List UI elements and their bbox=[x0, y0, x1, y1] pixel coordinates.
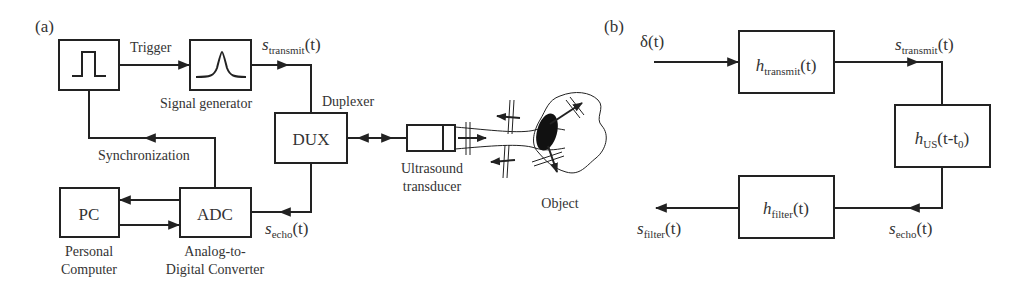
transducer-caption-line2: transducer bbox=[403, 179, 462, 194]
transmit-line bbox=[251, 65, 311, 113]
trigger-label: Trigger bbox=[130, 40, 172, 55]
adc-caption-line2: Digital Converter bbox=[166, 262, 265, 277]
dux-label: DUX bbox=[293, 130, 330, 149]
transducer-caption-line1: Ultrasound bbox=[401, 161, 463, 176]
echo-line-b bbox=[834, 167, 942, 208]
signal-generator-label: Signal generator bbox=[160, 96, 252, 111]
echo-line bbox=[251, 163, 311, 212]
s-echo-label-b: secho(t) bbox=[889, 219, 932, 240]
s-transmit-label-b: stransmit(t) bbox=[895, 35, 954, 56]
ultrasound-system-diagram: (a) Trigger Signal generator stransmit(t… bbox=[0, 0, 1019, 283]
panel-b: (b) δ(t) htransmit(t) stransmit(t) hUS(t… bbox=[604, 17, 990, 240]
adc-label: ADC bbox=[197, 205, 233, 224]
s-echo-label-a: secho(t) bbox=[265, 219, 308, 240]
synchronization-label: Synchronization bbox=[98, 148, 190, 163]
panel-b-tag: (b) bbox=[604, 17, 624, 36]
object-shape bbox=[532, 93, 606, 173]
pulse-generator-block bbox=[59, 40, 119, 90]
delta-input-label: δ(t) bbox=[640, 32, 664, 51]
duplexer-label: Duplexer bbox=[322, 94, 374, 109]
signal-generator-block bbox=[190, 40, 251, 90]
panel-a: (a) Trigger Signal generator stransmit(t… bbox=[35, 17, 606, 277]
h-filter-block bbox=[739, 176, 834, 238]
panel-a-tag: (a) bbox=[35, 17, 54, 36]
pc-caption-line2: Computer bbox=[61, 262, 117, 277]
ultrasound-transducer bbox=[407, 125, 455, 151]
transmit-line-b bbox=[834, 62, 942, 105]
s-transmit-label-a: stransmit(t) bbox=[262, 35, 321, 56]
adc-caption-line1: Analog-to- bbox=[184, 244, 246, 259]
pc-label: PC bbox=[79, 205, 100, 224]
s-filter-label: sfilter(t) bbox=[637, 219, 681, 240]
h-transmit-block bbox=[739, 31, 834, 93]
pc-caption-line1: Personal bbox=[65, 244, 113, 259]
object-caption: Object bbox=[541, 196, 578, 211]
